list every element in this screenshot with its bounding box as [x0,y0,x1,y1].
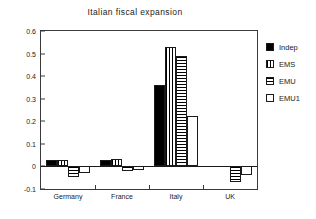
empty-swatch-icon [266,94,274,102]
chart-title: Italian fiscal expansion [0,7,270,17]
legend-item-emu[interactable]: EMU [266,74,316,88]
bar-italy-emu1 [187,116,198,167]
bar-germany-emu1 [79,166,90,173]
bar-france-indep [100,160,111,166]
bar-germany-emu [68,166,79,177]
y-axis-tick-label: 0.3 [26,95,36,102]
bar-france-emu [122,166,133,171]
y-axis-tick-label: 0.6 [26,28,36,35]
y-axis-tick-mark [41,189,45,190]
solid-swatch-icon [266,43,274,51]
y-axis-tick-label: 0.4 [26,73,36,80]
x-axis-tick-mark [95,185,96,189]
x-axis-category-label-germany: Germany [54,193,83,200]
bar-italy-ems [165,47,176,167]
y-axis-tick-mark [41,98,45,99]
bar-germany-ems [57,160,68,166]
bar-italy-indep [154,85,165,166]
chart-legend: IndepEMSEMUEMU1 [266,40,316,108]
legend-item-label: EMS [279,60,295,69]
legend-item-label: EMU1 [279,94,300,103]
bar-france-emu1 [133,166,144,169]
y-axis-tick-label: 0.1 [26,140,36,147]
bar-uk-emu [230,166,241,181]
legend-item-label: EMU [279,77,296,86]
y-axis-tick-label: 0.2 [26,118,36,125]
bar-germany-indep [46,160,57,166]
legend-item-emu1[interactable]: EMU1 [266,91,316,105]
y-axis-tick-mark [41,76,45,77]
plot-area: -0.100.10.20.30.40.50.6GermanyFranceItal… [41,31,257,189]
y-axis-tick-mark [41,121,45,122]
y-axis-tick-mark [41,31,45,32]
x-axis-tick-mark [203,185,204,189]
vertical-hatch-swatch-icon [266,60,274,68]
legend-item-ems[interactable]: EMS [266,57,316,71]
legend-item-label: Indep [279,43,298,52]
x-axis-tick-mark [149,185,150,189]
bar-italy-emu [176,56,187,167]
y-axis-tick-label: -0.1 [24,186,36,193]
x-axis-category-label-italy: Italy [170,193,183,200]
y-axis-tick-label: 0 [32,163,36,170]
horizontal-hatch-swatch-icon [266,77,274,85]
chart-figure: Italian fiscal expansion -0.100.10.20.30… [0,0,316,219]
legend-item-indep[interactable]: Indep [266,40,316,54]
plot-frame: -0.100.10.20.30.40.50.6GermanyFranceItal… [40,30,258,190]
x-axis-category-label-france: France [111,193,133,200]
y-axis-tick-mark [41,53,45,54]
y-axis-tick-mark [41,143,45,144]
bar-uk-emu1 [241,166,252,174]
bar-france-ems [111,159,122,166]
y-axis-tick-label: 0.5 [26,50,36,57]
x-axis-category-label-uk: UK [225,193,235,200]
